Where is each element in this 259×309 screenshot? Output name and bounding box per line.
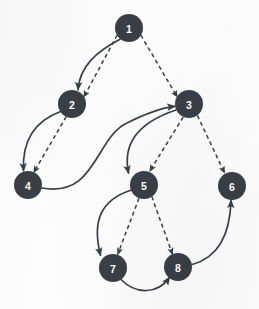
node-label-8: 8 bbox=[175, 262, 181, 274]
edge-2-to-4-solid bbox=[23, 112, 60, 171]
graph-node-7[interactable]: 7 bbox=[99, 254, 127, 282]
graph-node-5[interactable]: 5 bbox=[130, 171, 158, 199]
edge-1-to-2-dashed bbox=[84, 35, 117, 97]
graph-figure: 12345678 bbox=[0, 0, 259, 309]
graph-node-4[interactable]: 4 bbox=[14, 171, 42, 199]
edge-layer bbox=[23, 35, 231, 290]
edge-5-to-7-dashed bbox=[118, 198, 139, 254]
node-label-3: 3 bbox=[186, 99, 192, 111]
edge-3-to-5-dashed bbox=[150, 117, 183, 171]
node-label-1: 1 bbox=[126, 23, 132, 35]
edge-7-to-8-solid bbox=[121, 278, 170, 291]
graph-canvas: 12345678 bbox=[0, 0, 259, 309]
graph-node-8[interactable]: 8 bbox=[164, 253, 192, 281]
node-label-5: 5 bbox=[141, 180, 147, 192]
edge-5-to-7-solid bbox=[97, 190, 131, 255]
edge-5-to-8-dashed bbox=[152, 197, 173, 255]
edge-3-to-6-dashed bbox=[197, 116, 224, 173]
edge-1-to-3-dashed bbox=[141, 35, 177, 97]
node-label-2: 2 bbox=[69, 99, 75, 111]
edge-1-to-2-solid bbox=[78, 39, 120, 89]
node-label-4: 4 bbox=[25, 180, 31, 192]
graph-node-6[interactable]: 6 bbox=[218, 172, 246, 200]
graph-node-3[interactable]: 3 bbox=[175, 90, 203, 118]
node-label-7: 7 bbox=[110, 263, 116, 275]
edge-8-to-6-solid bbox=[192, 201, 231, 265]
graph-node-2[interactable]: 2 bbox=[58, 90, 86, 118]
graph-node-1[interactable]: 1 bbox=[115, 14, 143, 42]
node-label-6: 6 bbox=[229, 181, 235, 193]
